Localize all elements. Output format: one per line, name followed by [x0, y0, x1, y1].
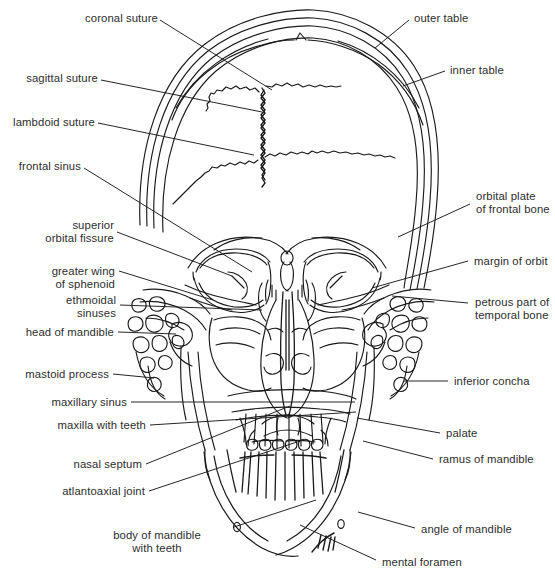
- label-petrous-part-line1: petrous part of: [475, 296, 555, 309]
- label-mastoid-process: mastoid process: [0, 368, 109, 381]
- label-body-of-mandible-line1: body of mandible: [84, 529, 230, 542]
- label-superior-orbital-fissure-line2: orbital fissure: [0, 232, 114, 245]
- label-coronal-suture: coronal suture: [0, 12, 158, 25]
- label-ethmoidal-sinuses-line2: sinuses: [0, 307, 116, 320]
- label-head-of-mandible: head of mandible: [0, 326, 114, 339]
- label-petrous-part-line2: temporal bone: [475, 309, 555, 322]
- label-orbital-plate-line1: orbital plate: [476, 190, 555, 203]
- skull-diagram-figure: coronal suture outer table sagittal sutu…: [0, 0, 555, 586]
- label-maxillary-sinus: maxillary sinus: [0, 396, 127, 409]
- label-ethmoidal-sinuses-line1: ethmoidal: [0, 294, 116, 307]
- label-maxilla-with-teeth: maxilla with teeth: [0, 419, 146, 432]
- label-palate: palate: [446, 427, 516, 440]
- label-margin-of-orbit: margin of orbit: [474, 255, 555, 268]
- label-sagittal-suture: sagittal suture: [0, 72, 98, 85]
- label-frontal-sinus: frontal sinus: [0, 160, 81, 173]
- label-inferior-concha: inferior concha: [454, 375, 555, 388]
- label-mental-foramen: mental foramen: [382, 556, 502, 569]
- label-greater-wing-line1: greater wing: [0, 265, 115, 278]
- label-ramus-of-mandible: ramus of mandible: [439, 453, 555, 466]
- label-angle-of-mandible: angle of mandible: [421, 523, 543, 536]
- label-greater-wing-line2: of sphenoid: [0, 278, 115, 291]
- label-nasal-septum: nasal septum: [0, 458, 142, 471]
- label-body-of-mandible-line2: with teeth: [84, 542, 230, 555]
- label-lambdoid-suture: lambdoid suture: [0, 116, 95, 129]
- label-outer-table: outer table: [414, 12, 554, 25]
- label-atlantoaxial-joint: atlantoaxial joint: [0, 485, 145, 498]
- label-inner-table: inner table: [450, 64, 555, 77]
- label-orbital-plate-line2: of frontal bone: [476, 203, 555, 216]
- label-superior-orbital-fissure-line1: superior: [0, 219, 114, 232]
